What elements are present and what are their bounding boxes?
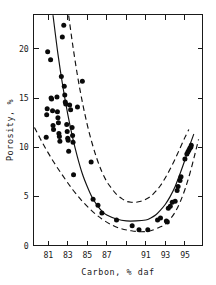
data-point xyxy=(71,172,76,177)
data-point xyxy=(89,159,94,164)
data-point xyxy=(57,139,62,144)
data-point xyxy=(145,227,150,232)
y-axis-title: Porosity, % xyxy=(5,99,15,161)
x-tick-label: 95 xyxy=(180,250,190,260)
data-point xyxy=(182,157,187,162)
data-point xyxy=(45,106,50,111)
scatter-plot: 81838587919395 05101520 Carbon, % daf Po… xyxy=(0,0,216,285)
data-point xyxy=(62,93,67,98)
data-point xyxy=(45,49,50,54)
data-point xyxy=(67,102,72,107)
data-point xyxy=(95,203,100,208)
y-axis-ticks: 05101520 xyxy=(19,44,38,251)
data-point xyxy=(55,109,60,114)
data-point xyxy=(173,199,178,204)
data-point xyxy=(49,97,54,102)
data-point xyxy=(65,129,70,134)
x-tick-label: 85 xyxy=(82,250,92,260)
data-point xyxy=(130,223,135,228)
data-point xyxy=(179,174,184,179)
x-axis-title: Carbon, % daf xyxy=(81,267,154,277)
data-point xyxy=(66,138,71,143)
x-tick-label: 93 xyxy=(161,250,171,260)
data-point xyxy=(62,84,67,89)
data-point xyxy=(71,140,76,145)
data-point xyxy=(64,122,69,127)
data-point xyxy=(51,127,56,132)
data-point xyxy=(70,125,75,130)
data-point xyxy=(91,197,96,202)
data-point xyxy=(114,217,119,222)
trend-curve-upper-bound xyxy=(69,15,189,202)
data-point xyxy=(80,79,85,84)
y-tick-label: 5 xyxy=(24,191,29,201)
x-tick-label: 81 xyxy=(43,250,53,260)
plot-frame xyxy=(34,14,204,246)
data-point xyxy=(44,135,49,140)
x-tick-label: 91 xyxy=(141,250,151,260)
data-points xyxy=(44,23,194,232)
x-tick-label: 87 xyxy=(102,250,112,260)
x-axis-ticks: 81838587919395 xyxy=(43,241,189,260)
data-point xyxy=(176,184,181,189)
y-tick-label: 20 xyxy=(19,44,29,54)
data-point xyxy=(50,108,55,113)
data-point xyxy=(57,134,62,139)
data-point xyxy=(54,95,59,100)
data-point xyxy=(68,107,73,112)
data-point xyxy=(75,104,80,109)
y-tick-label: 0 xyxy=(24,241,29,251)
data-point xyxy=(56,120,61,125)
y-axis-ticks-right xyxy=(198,49,203,246)
data-point xyxy=(44,112,49,117)
data-point xyxy=(61,23,66,28)
data-point xyxy=(59,74,64,79)
data-point xyxy=(66,149,71,154)
figure-container: 81838587919395 05101520 Carbon, % daf Po… xyxy=(0,0,216,285)
y-tick-label: 10 xyxy=(19,142,29,152)
data-point xyxy=(189,143,194,148)
data-point xyxy=(137,227,142,232)
data-point xyxy=(48,57,53,62)
data-point xyxy=(55,115,60,120)
data-point xyxy=(158,215,163,220)
x-tick-label: 83 xyxy=(63,250,73,260)
y-tick-label: 15 xyxy=(19,93,29,103)
data-point xyxy=(165,219,170,224)
trend-curve-mean-trend xyxy=(53,15,194,221)
data-point xyxy=(70,133,75,138)
data-point xyxy=(60,35,65,40)
data-point xyxy=(99,211,104,216)
